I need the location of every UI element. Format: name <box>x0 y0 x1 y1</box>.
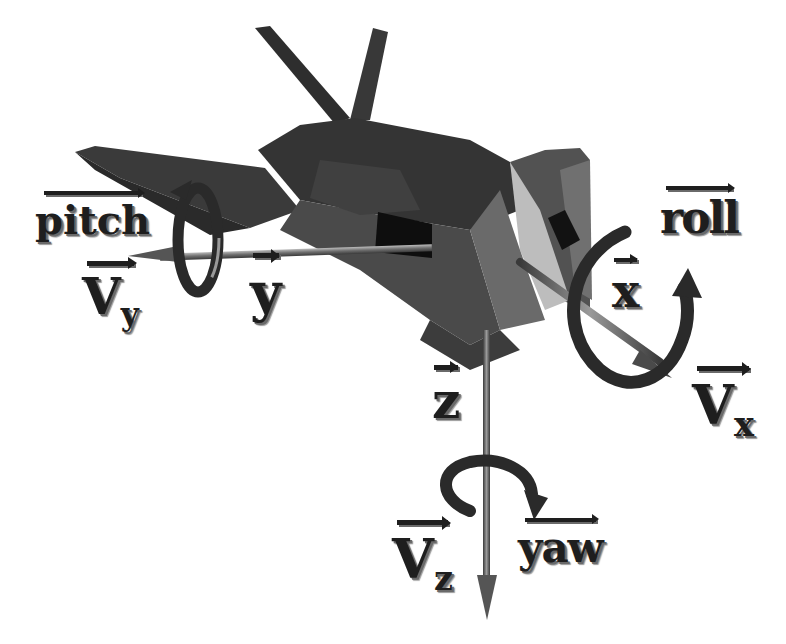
z-axis-arrow <box>477 330 497 620</box>
z-axis-label: z <box>432 376 460 426</box>
pitch-label: pitch <box>35 200 150 240</box>
x-axis-label: x <box>612 268 639 314</box>
y-vector-symbol: y <box>250 265 281 319</box>
vz-base: V <box>392 527 434 591</box>
vz-vector-symbol: Vz <box>392 532 453 595</box>
y-text: y <box>250 260 281 324</box>
vz-subscript: z <box>434 559 453 598</box>
y-axis-label: y <box>250 265 281 319</box>
yaw-label: yaw <box>518 527 603 569</box>
vx-base: V <box>692 373 734 437</box>
vy-vector-symbol: Vy <box>82 272 139 330</box>
vx-subscript: x <box>734 405 754 444</box>
stealth-aircraft <box>75 26 592 370</box>
z-vector-symbol: z <box>432 376 460 426</box>
roll-label: roll <box>660 196 738 240</box>
vx-label: Vx <box>692 378 754 441</box>
roll-vector-symbol: roll <box>660 196 738 240</box>
yaw-vector-symbol: yaw <box>518 527 603 569</box>
roll-text: roll <box>660 192 738 243</box>
vy-subscript: y <box>121 296 139 332</box>
tail-fin-right <box>350 28 388 120</box>
tail-fin-left <box>255 26 350 124</box>
vx-vector-symbol: Vx <box>692 378 754 441</box>
yaw-text: yaw <box>518 523 603 572</box>
aircraft-axes-diagram: pitch Vy y roll x Vx z yaw Vz <box>0 0 786 644</box>
x-vector-symbol: x <box>612 268 639 314</box>
z-text: z <box>432 371 460 430</box>
vy-base: V <box>82 267 121 326</box>
vy-label: Vy <box>82 272 139 330</box>
x-text: x <box>612 264 639 318</box>
vz-label: Vz <box>392 532 453 595</box>
pitch-vector-symbol: pitch <box>35 200 150 240</box>
pitch-text: pitch <box>35 196 150 243</box>
yaw-rotation-ring <box>446 461 548 520</box>
